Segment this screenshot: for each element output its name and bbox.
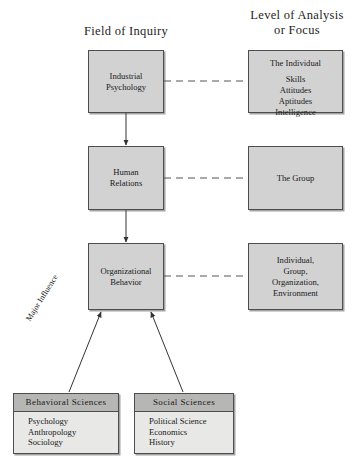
box-label-line-1: Individual, xyxy=(277,255,314,266)
list-item: Sociology xyxy=(28,437,118,448)
list-item: Intelligence xyxy=(275,107,316,118)
box-organizational-behavior[interactable]: Organizational Behavior xyxy=(88,243,164,310)
box-label-the-group: The Group xyxy=(277,173,314,184)
box-label-line-4: Environment xyxy=(273,288,318,299)
box-human-relations[interactable]: Human Relations xyxy=(88,146,164,210)
column-heading-level-of-analysis: Level of Analysis or Focus xyxy=(238,8,356,38)
list-item: Political Science xyxy=(149,416,233,427)
box-label-line-2: Behavior xyxy=(110,277,142,288)
arrow-social-sciences-to-organizational xyxy=(151,312,183,392)
box-header-social-sciences: Social Sciences xyxy=(135,394,233,412)
list-item: Attitudes xyxy=(275,85,316,96)
box-industrial-psychology[interactable]: Industrial Psychology xyxy=(88,50,164,113)
box-label-line-1: Industrial xyxy=(110,71,143,82)
box-behavioral-sciences[interactable]: Behavioral Sciences Psychology Anthropol… xyxy=(13,393,119,454)
list-item: Economics xyxy=(149,427,233,438)
label-major-influence: Major Influence xyxy=(24,255,72,323)
box-the-group[interactable]: The Group xyxy=(248,146,343,210)
list-item: History xyxy=(149,437,233,448)
list-item: Psychology xyxy=(28,416,118,427)
arrow-behavioral-sciences-to-organizational xyxy=(69,312,101,392)
box-list-the-individual: Skills Attitudes Aptitudes Intelligence xyxy=(275,74,316,118)
box-title-the-individual: The Individual xyxy=(270,58,321,69)
column-heading-field-of-inquiry: Field of Inquiry xyxy=(56,24,196,39)
box-individual-group-organization-environment[interactable]: Individual, Group, Organization, Environ… xyxy=(248,243,343,310)
column-heading-line-1: Level of Analysis xyxy=(250,8,343,22)
box-header-behavioral-sciences: Behavioral Sciences xyxy=(14,394,118,412)
box-the-individual[interactable]: The Individual Skills Attitudes Aptitude… xyxy=(248,50,343,113)
box-label-line-1: Organizational xyxy=(101,266,152,277)
box-label-line-2: Relations xyxy=(110,178,142,189)
box-body-behavioral-sciences: Psychology Anthropology Sociology xyxy=(14,412,118,453)
column-heading-line-2: or Focus xyxy=(274,23,320,37)
box-label-line-2: Psychology xyxy=(106,82,146,93)
list-item: Anthropology xyxy=(28,427,118,438)
box-body-social-sciences: Political Science Economics History xyxy=(135,412,233,453)
box-label-line-2: Group, xyxy=(283,266,307,277)
concept-diagram: Field of Inquiry Level of Analysis or Fo… xyxy=(0,0,359,464)
list-item: Skills xyxy=(275,74,316,85)
box-label-line-1: Human xyxy=(113,167,138,178)
box-label-line-3: Organization, xyxy=(272,277,319,288)
box-social-sciences[interactable]: Social Sciences Political Science Econom… xyxy=(134,393,234,454)
list-item: Aptitudes xyxy=(275,96,316,107)
